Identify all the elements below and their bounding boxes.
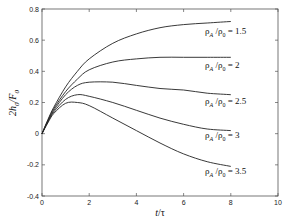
y-tick-label: 0.2 (29, 99, 39, 106)
x-tick-label: 0 (40, 199, 44, 206)
curve-label: ρA /ρ0 = 3 (205, 130, 240, 142)
curve-annotations: ρA /ρ0 = 1.5ρA /ρ0 = 2ρA /ρ0 = 2.5ρA /ρ0… (205, 26, 247, 178)
curve-label: ρA /ρ0 = 2.5 (205, 96, 247, 108)
x-axis-title: t/τ (155, 207, 165, 218)
x-tick-label: 6 (182, 199, 186, 206)
y-tick-label: 0.8 (29, 6, 39, 13)
series-line-1 (42, 57, 231, 134)
chart-canvas: 0246810-0.4-0.200.20.40.60.8 ρA /ρ0 = 1.… (0, 0, 286, 222)
y-tick-label: -0.4 (27, 193, 39, 200)
curve-label: ρA /ρ0 = 1.5 (205, 26, 247, 38)
curve-label: ρA /ρ0 = 2 (205, 60, 240, 72)
x-tick-label: 10 (274, 199, 282, 206)
y-tick-label: -0.2 (27, 161, 39, 168)
series-line-0 (42, 22, 231, 134)
y-axis-title: 2h0/F0 (7, 90, 21, 116)
plot-curves (42, 22, 231, 167)
series-line-2 (42, 82, 231, 134)
y-tick-label: 0.6 (29, 37, 39, 44)
series-line-3 (42, 95, 231, 134)
y-tick-label: 0.4 (29, 68, 39, 75)
x-tick-label: 4 (134, 199, 138, 206)
x-tick-label: 2 (87, 199, 91, 206)
x-tick-label: 8 (229, 199, 233, 206)
series-line-4 (42, 102, 231, 166)
y-tick-label: 0 (35, 130, 39, 137)
curve-label: ρA /ρ0 = 3.5 (205, 166, 247, 178)
